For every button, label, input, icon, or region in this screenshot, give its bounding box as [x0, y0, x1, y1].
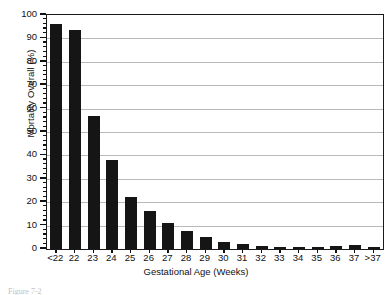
bar [50, 24, 62, 249]
bar [368, 247, 380, 249]
y-tick-label: 30 [26, 173, 37, 183]
y-tick-label: 10 [26, 220, 37, 230]
bar [274, 247, 286, 249]
bar [312, 247, 324, 249]
x-axis-ticks: <2222232425262728293031323334353637>37 [46, 250, 382, 264]
bar [256, 246, 268, 250]
plot-area [46, 14, 384, 250]
y-tick-label: 70 [26, 79, 37, 89]
y-tick-label: 90 [26, 32, 37, 42]
bar [88, 116, 100, 249]
bar [106, 160, 118, 249]
bar [200, 237, 212, 249]
bar [349, 245, 361, 249]
x-axis-title: Gestational Age (Weeks) [0, 266, 392, 277]
y-axis-ticks: 0102030405060708090100 [0, 14, 46, 248]
chart-figure: Mortality Overall (%) 010203040506070809… [0, 0, 392, 295]
y-tick-label: 50 [26, 126, 37, 136]
y-tick-label: 80 [26, 56, 37, 66]
x-tick-label: >37 [359, 253, 387, 263]
bar [69, 30, 81, 249]
figure-caption-partial: Figure 7-2 [8, 287, 384, 295]
y-tick-label: 60 [26, 103, 37, 113]
y-tick-label: 20 [26, 196, 37, 206]
y-tick-label: 100 [21, 9, 37, 19]
bar [181, 231, 193, 249]
y-tick-label: 0 [32, 243, 37, 253]
bar [218, 242, 230, 249]
bar [330, 246, 342, 249]
bar [293, 247, 305, 249]
bar-series [47, 15, 383, 249]
bar [162, 223, 174, 249]
bar [144, 211, 156, 249]
y-tick-label: 40 [26, 149, 37, 159]
bar [125, 197, 137, 249]
bar [237, 244, 249, 249]
